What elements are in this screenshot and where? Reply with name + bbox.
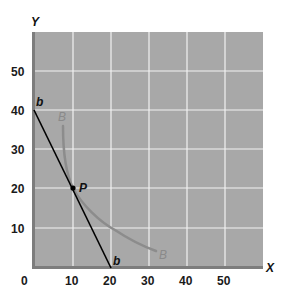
svg-text:10: 10 xyxy=(11,222,25,236)
point-P-marker xyxy=(70,185,75,190)
y-tick-labels: 50 40 30 20 10 xyxy=(11,65,25,236)
svg-text:0: 0 xyxy=(21,274,28,288)
svg-text:10: 10 xyxy=(65,274,79,288)
y-axis-title: Y xyxy=(31,15,40,29)
svg-text:20: 20 xyxy=(103,274,117,288)
x-axis-title: X xyxy=(265,261,275,275)
svg-text:40: 40 xyxy=(11,104,25,118)
chart: P b b B B Y X 50 40 30 20 10 0 10 20 30 … xyxy=(0,0,287,296)
plot-background xyxy=(32,32,263,269)
svg-text:50: 50 xyxy=(217,274,231,288)
bottom-axis-band xyxy=(32,266,263,269)
svg-text:30: 30 xyxy=(141,274,155,288)
left-axis-band xyxy=(32,32,35,269)
line-b-bottom-label: b xyxy=(113,254,120,268)
svg-text:50: 50 xyxy=(11,65,25,79)
svg-text:20: 20 xyxy=(11,182,25,196)
svg-text:30: 30 xyxy=(11,143,25,157)
svg-text:40: 40 xyxy=(179,274,193,288)
point-P-label: P xyxy=(79,181,88,195)
curve-B-top-label: B xyxy=(58,110,66,124)
curve-B-bottom-label: B xyxy=(159,248,167,262)
x-tick-labels: 0 10 20 30 40 50 xyxy=(21,274,231,288)
line-b-top-label: b xyxy=(36,95,43,109)
